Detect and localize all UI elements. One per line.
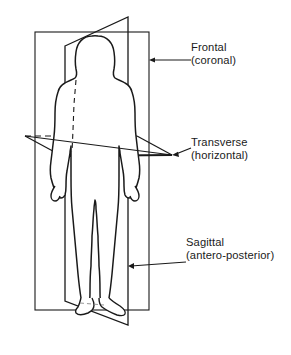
label-sagittal-alias: (antero-posterior) <box>186 249 274 262</box>
sagittal-leader-arrowhead <box>128 263 134 269</box>
body-outline <box>50 36 140 306</box>
label-transverse-name: Transverse <box>191 136 248 149</box>
frontal-leader-arrowhead <box>149 57 155 62</box>
transverse-leader-arrowhead <box>172 152 179 157</box>
label-frontal-alias: (coronal) <box>191 54 236 67</box>
label-transverse-alias: (horizontal) <box>191 149 248 162</box>
sagittal-leader-line <box>131 262 186 266</box>
label-transverse: Transverse (horizontal) <box>191 136 248 162</box>
label-sagittal: Sagittal (antero-posterior) <box>186 236 274 262</box>
right-foot <box>99 298 125 316</box>
transverse-plane-right-edge <box>137 136 172 155</box>
anatomical-planes-figure: Frontal (coronal) Transverse (horizontal… <box>0 0 291 355</box>
label-sagittal-name: Sagittal <box>186 236 274 249</box>
planes-diagram-canvas <box>0 0 291 355</box>
left-foot <box>76 298 94 315</box>
label-frontal-name: Frontal <box>191 41 236 54</box>
label-frontal: Frontal (coronal) <box>191 41 236 67</box>
human-body-silhouette <box>50 36 140 316</box>
